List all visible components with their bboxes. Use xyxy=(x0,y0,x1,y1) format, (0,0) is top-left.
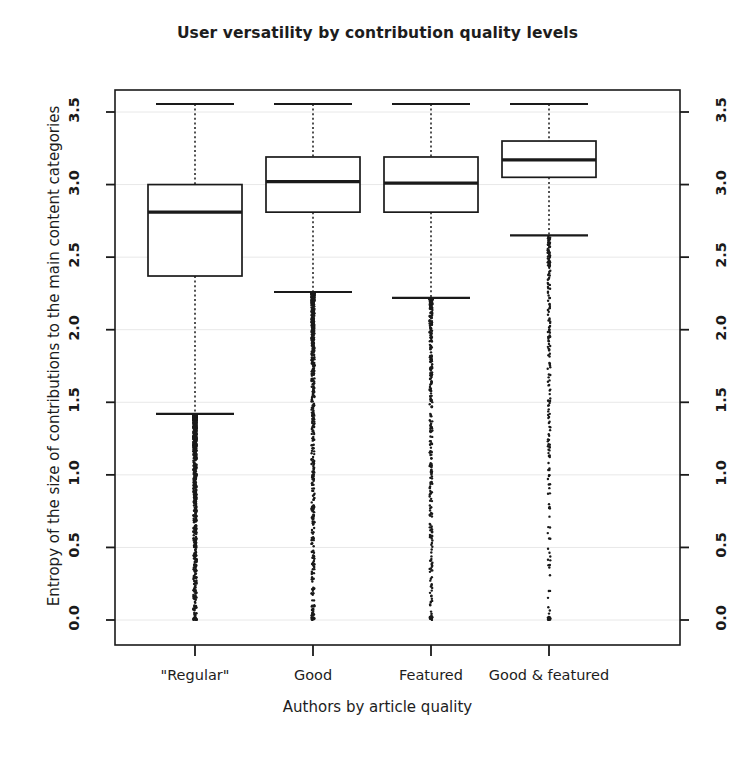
y-tick-label-right: 0.0 xyxy=(713,595,729,641)
y-tick-label-left: 2.0 xyxy=(66,305,82,351)
y-tick-label-left: 3.5 xyxy=(66,87,82,133)
y-tick-label-left: 1.5 xyxy=(66,377,82,423)
y-tick-label-right: 1.0 xyxy=(713,450,729,496)
y-tick-label-right: 2.0 xyxy=(713,305,729,351)
y-tick-label-left: 1.0 xyxy=(66,450,82,496)
y-tick-label-right: 3.0 xyxy=(713,160,729,206)
chart-page: User versatility by contribution quality… xyxy=(0,0,755,773)
y-tick-label-right: 2.5 xyxy=(713,232,729,278)
boxplot-canvas xyxy=(0,0,755,773)
y-tick-label-right: 1.5 xyxy=(713,377,729,423)
y-tick-label-left: 3.0 xyxy=(66,160,82,206)
x-category-label: Good & featured xyxy=(459,667,639,683)
y-tick-label-right: 3.5 xyxy=(713,87,729,133)
y-tick-label-left: 0.0 xyxy=(66,595,82,641)
y-tick-label-left: 2.5 xyxy=(66,232,82,278)
x-axis-title: Authors by article quality xyxy=(0,698,755,716)
y-tick-label-right: 0.5 xyxy=(713,522,729,568)
y-tick-label-left: 0.5 xyxy=(66,522,82,568)
